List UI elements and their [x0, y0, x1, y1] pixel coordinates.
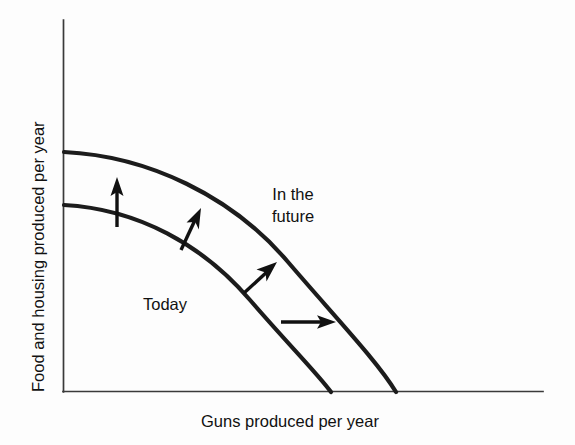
x-axis-label: Guns produced per year — [201, 412, 379, 430]
axes-group — [63, 20, 543, 392]
today-region-label: Today — [143, 295, 188, 313]
ppf-diagram: Food and housing produced per year Guns … — [0, 0, 575, 445]
future-region-label-line2: future — [272, 207, 314, 225]
figure-canvas: Food and housing produced per year Guns … — [0, 0, 575, 445]
future-region-label-line1: In the — [272, 185, 313, 203]
ppf-curve-today — [64, 205, 331, 392]
y-axis-label: Food and housing produced per year — [29, 121, 47, 392]
growth-arrow-2 — [181, 208, 201, 250]
growth-arrow-1 — [111, 177, 124, 227]
growth-arrow-4 — [281, 315, 336, 329]
growth-arrow-3 — [244, 262, 277, 293]
